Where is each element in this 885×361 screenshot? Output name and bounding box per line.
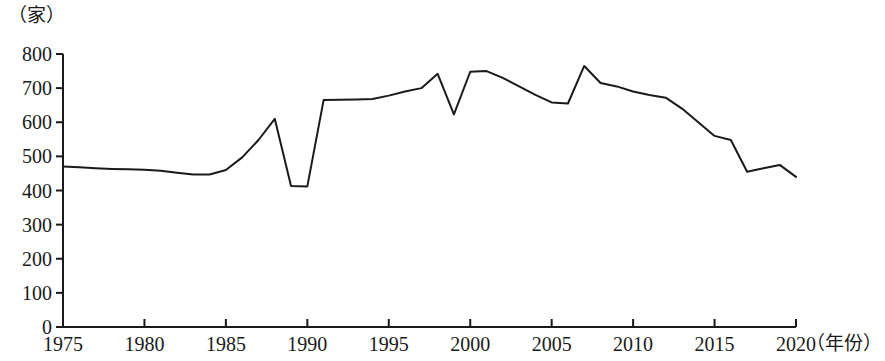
x-axis-tick-label: 2015 [675, 334, 755, 354]
plot-area [0, 0, 885, 361]
x-axis-tick-label: 2000 [430, 334, 510, 354]
x-axis-ticks [63, 319, 796, 327]
y-axis-tick-label: 500 [0, 146, 52, 166]
axis-lines [63, 54, 796, 327]
y-axis-tick-label: 300 [0, 215, 52, 235]
x-axis-tick-label: 1990 [267, 334, 347, 354]
y-axis-tick-label: 100 [0, 283, 52, 303]
x-axis-tick-label: 1980 [104, 334, 184, 354]
y-axis-tick-label: 800 [0, 44, 52, 64]
x-axis-tick-label: 2020 [756, 334, 836, 354]
x-axis-tick-label: 2005 [512, 334, 592, 354]
x-axis-tick-label: 1985 [186, 334, 266, 354]
y-axis-tick-label: 400 [0, 181, 52, 201]
x-axis-tick-label: 2010 [593, 334, 673, 354]
data-series-line [63, 66, 796, 186]
y-axis-tick-label: 700 [0, 78, 52, 98]
y-axis-tick-label: 600 [0, 112, 52, 132]
y-axis-tick-label: 200 [0, 249, 52, 269]
line-chart: （家） （年份） 0100200300400500600700800 19751… [0, 0, 885, 361]
x-axis-tick-label: 1995 [349, 334, 429, 354]
x-axis-tick-label: 1975 [23, 334, 103, 354]
y-axis-ticks [56, 54, 63, 327]
